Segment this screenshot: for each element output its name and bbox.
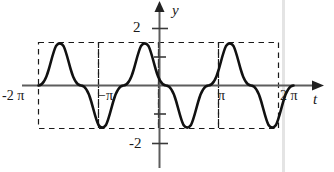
plot-canvas — [0, 0, 334, 172]
x-tick-label-2pi: 2 π — [280, 89, 298, 103]
x-tick-label-pi: π — [218, 89, 225, 103]
x-axis-label: t — [313, 92, 317, 107]
x-axis — [22, 81, 324, 91]
y-axis-arrowhead — [155, 1, 165, 12]
x-tick-label-neg-2pi: -2 π — [2, 89, 24, 103]
y-tick-label-neg-2: -2 — [129, 136, 142, 151]
x-tick-label-neg-pi: −π — [98, 89, 113, 103]
y-tick-label-2: 2 — [133, 20, 141, 35]
x-axis-arrowhead — [312, 81, 324, 91]
y-axis-label: y — [172, 3, 179, 18]
sine-wave-figure: 2 -2 -2 π −π π 2 π y t — [0, 0, 334, 172]
